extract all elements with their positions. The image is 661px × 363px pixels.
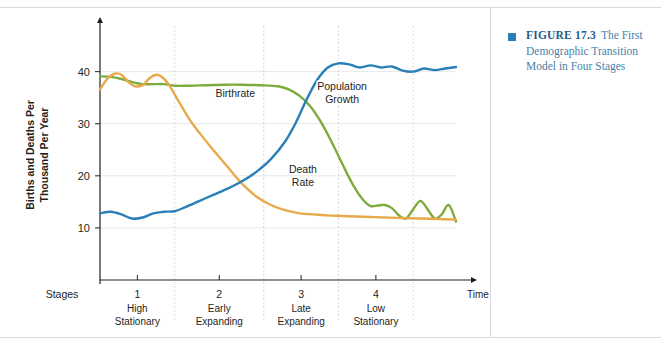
y-tick-label: 20 [78, 170, 90, 182]
caption-text: FIGURE 17.3The First Demographic Transit… [526, 28, 653, 75]
y-axis-title: Births and Deaths Per [24, 100, 36, 210]
series-label-birthrate: Birthrate [215, 87, 255, 99]
figure-container: 10203040BirthrateBirthrateDeathDeathRate… [0, 0, 661, 363]
caption-bullet-icon [508, 33, 516, 41]
series-label-population-growth: Population [317, 80, 367, 92]
series-label-death-rate: Rate [292, 176, 314, 188]
caption-figure-number: FIGURE 17.3 [526, 29, 596, 41]
stage-name-line2: Stationary [115, 316, 160, 327]
stage-name-line1: Low [367, 303, 386, 314]
y-tick-label: 40 [78, 66, 90, 78]
demographic-transition-chart: 10203040BirthrateBirthrateDeathDeathRate… [0, 8, 490, 337]
series-line-death-rate [100, 73, 456, 219]
bottom-divider-rule [0, 337, 661, 338]
stage-name-line2: Stationary [353, 316, 398, 327]
caption-divider-rule [490, 8, 491, 337]
chart-area: 10203040BirthrateBirthrateDeathDeathRate… [0, 8, 490, 337]
stage-number-label: 2 [216, 288, 222, 300]
stage-number-label: 1 [134, 288, 140, 300]
stage-name-line2: Expanding [278, 316, 325, 327]
series-label-death-rate: Death [289, 163, 317, 175]
stage-name-line1: Early [208, 303, 231, 314]
y-tick-label: 30 [78, 118, 90, 130]
stage-name-line2: Expanding [196, 316, 243, 327]
stage-name-line1: Late [291, 303, 311, 314]
stage-name-line1: High [127, 303, 148, 314]
figure-caption: FIGURE 17.3The First Demographic Transit… [508, 28, 653, 75]
stages-axis-label: Stages [46, 288, 79, 300]
stage-number-label: 3 [298, 288, 304, 300]
y-axis-title: Thousand Per Year [38, 108, 50, 203]
stage-number-label: 4 [373, 288, 379, 300]
series-label-population-growth: Growth [325, 93, 359, 105]
series-line-birthrate [100, 76, 456, 221]
y-tick-label: 10 [78, 222, 90, 234]
time-axis-label: Time [467, 289, 489, 300]
